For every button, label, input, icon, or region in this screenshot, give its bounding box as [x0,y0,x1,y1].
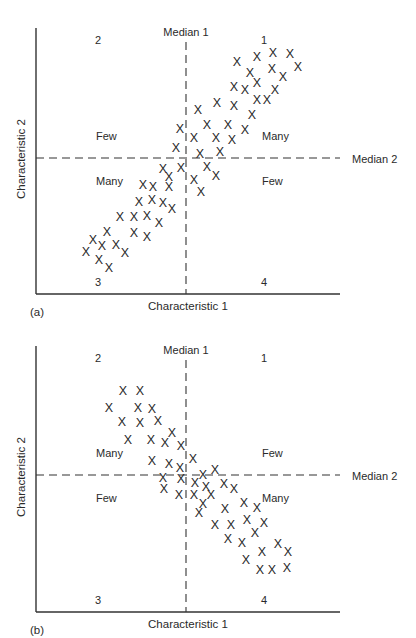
x-marker-icon: X [159,196,168,210]
x-axis-label: Characteristic 1 [148,300,228,312]
y-axis-label: Characteristic 2 [15,437,27,517]
x-marker-icon: X [175,488,184,502]
quadrant-3-number: 3 [95,594,101,606]
panel-b: Median 1Median 22134ManyFewFewManyCharac… [15,344,397,636]
x-marker-icon: X [256,563,265,577]
x-marker-icon: X [253,50,262,64]
quadrant-4-number: 4 [261,276,267,288]
x-marker-icon: X [212,169,221,183]
x-marker-icon: X [118,415,127,429]
x-marker-icon: X [95,253,104,267]
x-marker-icon: X [168,202,177,216]
data-points: XXXXXXXXXXXXXXXXXXXXXXXXXXXXXXXXXXXXXXXX… [82,46,303,275]
quadrant-label-lower-right: Many [262,492,289,504]
median-1-label: Median 1 [163,26,208,38]
median-2-label: Median 2 [352,153,397,165]
x-marker-icon: X [212,131,221,145]
x-marker-icon: X [116,210,125,224]
x-marker-icon: X [279,70,288,84]
x-marker-icon: X [253,93,262,107]
x-marker-icon: X [230,482,239,496]
x-marker-icon: X [154,414,163,428]
x-marker-icon: X [147,433,156,447]
x-marker-icon: X [197,185,206,199]
x-marker-icon: X [283,561,292,575]
x-marker-icon: X [241,83,250,97]
quadrant-label-lower-right: Few [262,175,283,187]
x-marker-icon: X [82,245,91,259]
x-marker-icon: X [230,80,239,94]
quadrant-3-number: 3 [95,276,101,288]
x-marker-icon: X [148,454,157,468]
x-axis-label: Characteristic 1 [148,618,228,630]
x-marker-icon: X [263,93,272,107]
data-points: XXXXXXXXXXXXXXXXXXXXXXXXXXXXXXXXXXXXXXXX… [105,384,293,577]
x-marker-icon: X [177,161,186,175]
x-marker-icon: X [135,195,144,209]
x-marker-icon: X [213,96,222,110]
x-marker-icon: X [160,482,169,496]
x-marker-icon: X [269,46,278,60]
x-marker-icon: X [230,99,239,113]
x-marker-icon: X [268,563,277,577]
quadrant-label-upper-right: Many [262,130,289,142]
x-marker-icon: X [284,545,293,559]
x-marker-icon: X [168,426,177,440]
x-marker-icon: X [224,532,233,546]
x-marker-icon: X [172,141,181,155]
quadrant-scatter-figure: Median 1Median 22134FewManyManyFewCharac… [0,0,416,638]
x-marker-icon: X [143,230,152,244]
x-marker-icon: X [203,160,212,174]
x-marker-icon: X [130,226,139,240]
x-marker-icon: X [195,506,204,520]
quadrant-1-number: 1 [261,352,267,364]
x-marker-icon: X [220,477,229,491]
x-marker-icon: X [112,238,121,252]
x-marker-icon: X [119,384,128,398]
x-marker-icon: X [177,439,186,453]
x-marker-icon: X [241,123,250,137]
x-marker-icon: X [105,401,114,415]
x-marker-icon: X [105,261,114,275]
x-marker-icon: X [155,216,164,230]
x-marker-icon: X [221,502,230,516]
x-marker-icon: X [211,463,220,477]
x-marker-icon: X [190,488,199,502]
x-marker-icon: X [177,472,186,486]
x-marker-icon: X [260,516,269,530]
x-marker-icon: X [294,60,303,74]
median-2-label: Median 2 [352,470,397,482]
x-marker-icon: X [240,496,249,510]
x-marker-icon: X [216,145,225,159]
x-marker-icon: X [243,513,252,527]
x-marker-icon: X [227,518,236,532]
x-marker-icon: X [189,452,198,466]
x-marker-icon: X [224,118,233,132]
quadrant-label-upper-right: Few [262,447,283,459]
quadrant-label-upper-left: Few [96,130,117,142]
panel-label: (a) [30,306,44,318]
x-marker-icon: X [194,103,203,117]
x-marker-icon: X [238,536,247,550]
x-marker-icon: X [258,545,267,559]
panel-label: (b) [30,624,44,636]
x-marker-icon: X [121,246,130,260]
quadrant-label-lower-left: Few [96,492,117,504]
x-marker-icon: X [196,147,205,161]
x-marker-icon: X [251,526,260,540]
x-marker-icon: X [242,553,251,567]
x-marker-icon: X [176,122,185,136]
x-marker-icon: X [268,62,277,76]
x-marker-icon: X [143,209,152,223]
x-marker-icon: X [130,210,139,224]
x-marker-icon: X [149,180,158,194]
median-1-label: Median 1 [163,344,208,356]
x-marker-icon: X [233,55,242,69]
panel-a: Median 1Median 22134FewManyManyFewCharac… [15,26,397,318]
quadrant-4-number: 4 [261,594,267,606]
x-marker-icon: X [271,83,280,97]
x-marker-icon: X [124,433,133,447]
x-marker-icon: X [103,225,112,239]
x-marker-icon: X [136,384,145,398]
x-marker-icon: X [190,131,199,145]
